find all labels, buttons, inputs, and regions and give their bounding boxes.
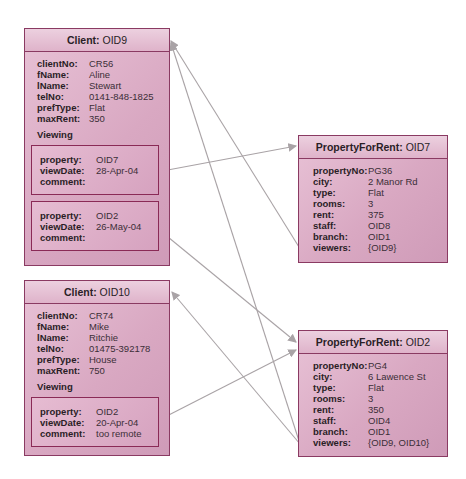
attribute-row: staff:OID4 xyxy=(313,415,447,426)
attribute-row: fName:Aline xyxy=(37,69,169,80)
attribute-row: type:Flat xyxy=(313,187,447,198)
attribute-row: lName:Stewart xyxy=(37,80,169,91)
viewing-section-label: Viewing xyxy=(37,381,169,392)
object-header: Client: OID10 xyxy=(25,281,169,304)
attribute-row: staff:OID8 xyxy=(313,220,447,231)
link-property-oid2-viewers-to-client-oid9 xyxy=(171,43,300,444)
link-viewing-oid7-to-property-oid7 xyxy=(157,146,296,172)
viewing-record: property:OID2 viewDate:20-Apr-04 comment… xyxy=(31,397,159,447)
property-object-oid2: PropertyForRent: OID2 propertyNo:PG4 cit… xyxy=(298,330,448,457)
attribute-row: prefType:House xyxy=(37,354,169,365)
attribute-row: type:Flat xyxy=(313,382,447,393)
attribute-row: lName:Ritchie xyxy=(37,332,169,343)
attribute-row: rent:350 xyxy=(313,404,447,415)
object-id: OID2 xyxy=(406,336,431,348)
attribute-row: clientNo:CR56 xyxy=(37,58,169,69)
attribute-row: city:6 Lawence St xyxy=(313,371,447,382)
class-name: PropertyForRent: xyxy=(316,336,403,348)
attribute-row: propertyNo:PG4 xyxy=(313,360,447,371)
viewing-record: property:OID2 viewDate:26-May-04 comment… xyxy=(31,201,159,251)
property-object-oid7: PropertyForRent: OID7 propertyNo:PG36 ci… xyxy=(298,135,448,263)
attribute-row: maxRent:750 xyxy=(37,365,169,376)
attribute-row: propertyNo:PG36 xyxy=(313,165,447,176)
attribute-row: clientNo:CR74 xyxy=(37,310,169,321)
object-id: OID9 xyxy=(103,34,128,46)
link-property-oid7-viewers-to-client-oid9 xyxy=(171,41,299,247)
attribute-row: city:2 Manor Rd xyxy=(313,176,447,187)
attribute-row: viewers:{OID9} xyxy=(313,242,447,253)
attribute-row: telNo:0141-848-1825 xyxy=(37,91,169,102)
object-id: OID10 xyxy=(100,286,130,298)
client-object-oid9: Client: OID9 clientNo:CR56 fName:Aline l… xyxy=(24,28,170,266)
class-name: PropertyForRent: xyxy=(316,141,403,153)
link-property-oid2-viewers-to-client-oid10 xyxy=(172,292,300,444)
attribute-row: prefType:Flat xyxy=(37,102,169,113)
attribute-row: fName:Mike xyxy=(37,321,169,332)
attribute-row: maxRent:350 xyxy=(37,113,169,124)
object-header: Client: OID9 xyxy=(25,29,169,52)
object-id: OID7 xyxy=(406,141,431,153)
link-viewing-oid2-to-property-oid2 xyxy=(157,228,296,342)
attribute-row: branch:OID1 xyxy=(313,426,447,437)
attribute-row: rooms:3 xyxy=(313,393,447,404)
class-name: Client: xyxy=(64,286,97,298)
attribute-row: rooms:3 xyxy=(313,198,447,209)
link-client-oid10-viewing-to-property-oid2 xyxy=(157,350,296,421)
client-object-oid10: Client: OID10 clientNo:CR74 fName:Mike l… xyxy=(24,280,170,456)
object-header: PropertyForRent: OID7 xyxy=(299,136,447,159)
attribute-row: branch:OID1 xyxy=(313,231,447,242)
viewing-section-label: Viewing xyxy=(37,129,169,140)
attribute-row: rent:375 xyxy=(313,209,447,220)
viewing-record: property:OID7 viewDate:28-Apr-04 comment… xyxy=(31,145,159,195)
class-name: Client: xyxy=(67,34,100,46)
attribute-row: viewers:{OID9, OID10} xyxy=(313,437,447,448)
object-header: PropertyForRent: OID2 xyxy=(299,331,447,354)
attribute-row: telNo:01475-392178 xyxy=(37,343,169,354)
